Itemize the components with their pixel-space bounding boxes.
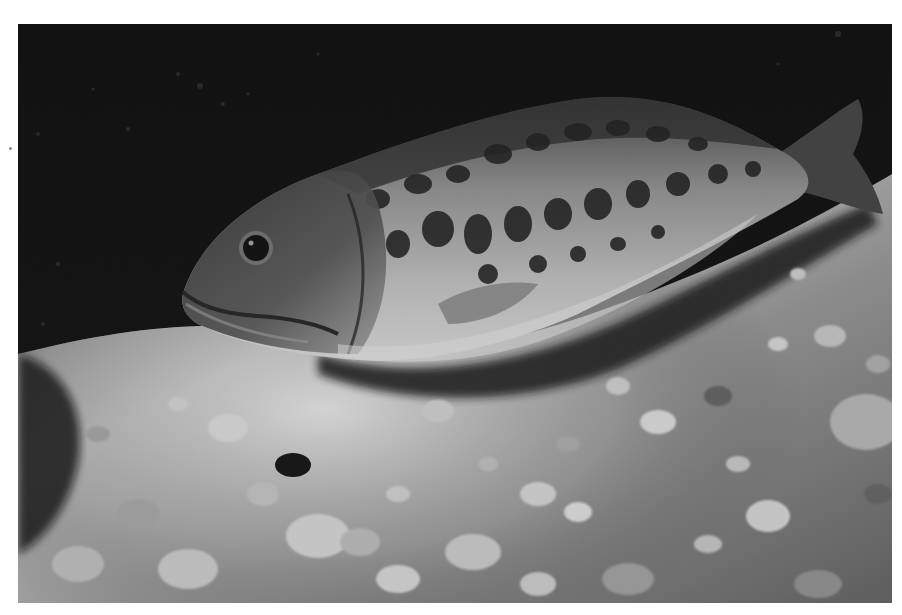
film-grain: [18, 24, 892, 603]
photo-canvas: [18, 24, 892, 603]
fish-photograph: [18, 24, 892, 603]
margin-dot: [9, 147, 12, 150]
